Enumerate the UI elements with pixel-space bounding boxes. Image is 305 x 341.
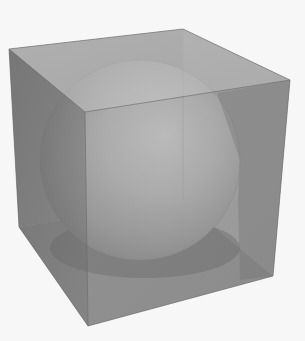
cube-sphere-illustration: [0, 0, 305, 341]
